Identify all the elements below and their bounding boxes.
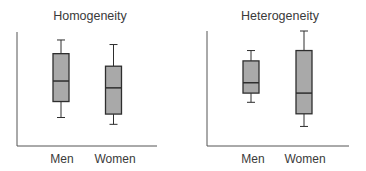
x-label-men: Men (50, 152, 73, 166)
homogeneity-panel: Homogeneity Men Women (0, 0, 183, 171)
men-box (243, 61, 259, 93)
homogeneity-plot (0, 0, 183, 171)
heterogeneity-plot (183, 0, 366, 171)
men-box (53, 54, 69, 102)
women-box (296, 51, 312, 114)
heterogeneity-panel: Heterogeneity Men Women (183, 0, 366, 171)
x-label-women: Women (284, 152, 325, 166)
women-box (106, 66, 122, 114)
x-label-men: Men (241, 152, 264, 166)
x-label-women: Women (94, 152, 135, 166)
